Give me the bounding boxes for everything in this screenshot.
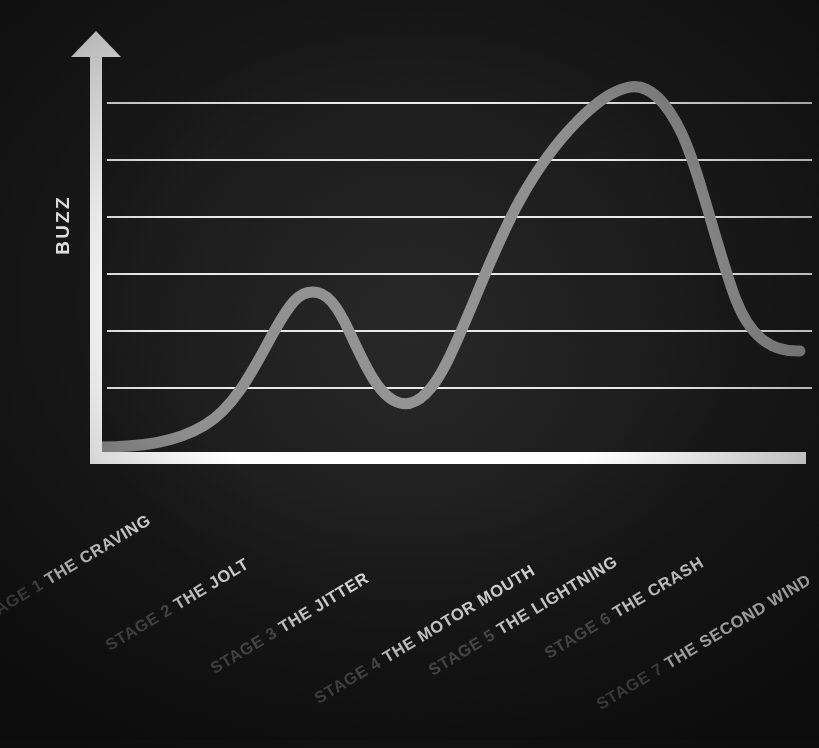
y-axis-line bbox=[90, 52, 102, 464]
caffeine-buzz-chart-figure: BUZZ STAGE 1 THE CRAVING STAGE 2 THE JOL… bbox=[0, 0, 819, 748]
axes bbox=[71, 31, 806, 464]
x-axis-line bbox=[90, 452, 806, 464]
buzz-curve bbox=[99, 87, 800, 447]
bottom-border-band bbox=[0, 740, 819, 748]
